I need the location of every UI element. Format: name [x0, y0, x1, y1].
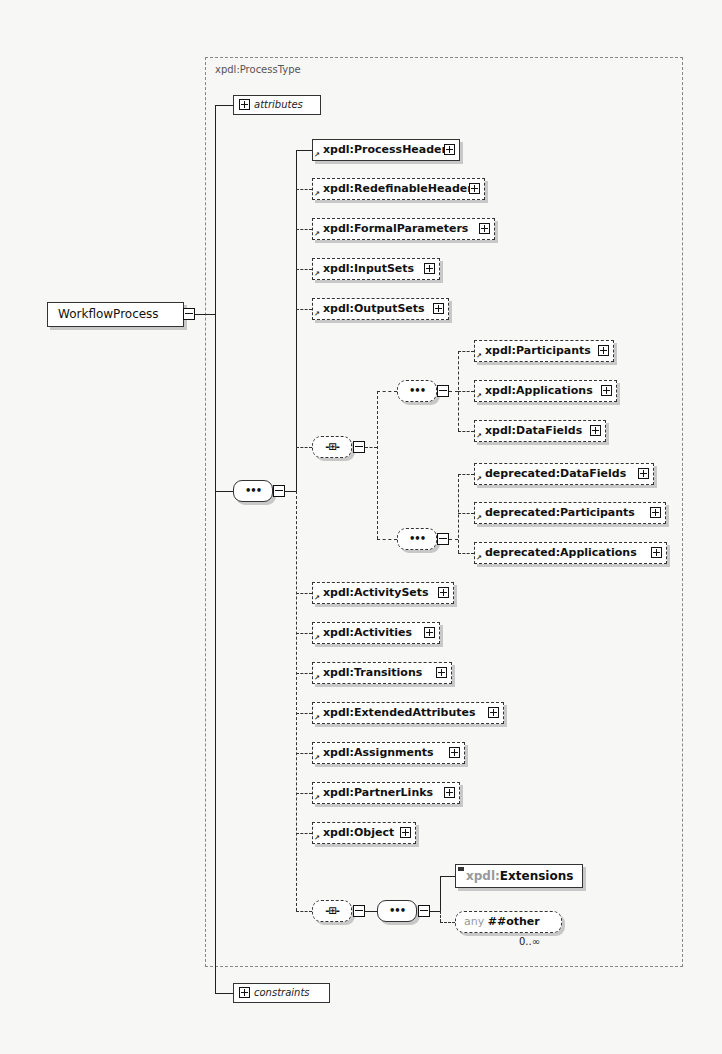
any-other-wildcard[interactable]: any ##other	[455, 911, 562, 933]
choice-compositor[interactable]: -⊞-	[312, 436, 352, 458]
expand-icon[interactable]	[651, 547, 662, 558]
expand-icon[interactable]	[424, 627, 435, 638]
connector	[296, 593, 312, 594]
expand-icon[interactable]	[449, 747, 460, 758]
element-activities[interactable]: ↗xpdl:Activities	[312, 622, 440, 644]
connector	[296, 189, 312, 190]
element-applications[interactable]: ↗xpdl:Applications	[474, 380, 617, 402]
connector	[296, 633, 312, 634]
expand-icon[interactable]	[444, 144, 455, 155]
collapse-icon[interactable]	[437, 385, 449, 397]
connector	[296, 793, 312, 794]
element-extensions[interactable]: xpdl:Extensions	[455, 864, 583, 888]
element-deprecated-data-fields[interactable]: ↗deprecated:DataFields	[474, 463, 654, 485]
cardinality-label: 0..∞	[519, 936, 540, 947]
connector	[440, 922, 455, 923]
connector	[296, 269, 312, 270]
constraints-label: constraints	[254, 987, 310, 998]
connector	[296, 673, 312, 674]
connector	[296, 229, 312, 230]
attributes-label: attributes	[254, 99, 303, 110]
expand-icon[interactable]	[638, 468, 649, 479]
process-type-label: xpdl:ProcessType	[215, 64, 301, 75]
collapse-icon[interactable]	[273, 485, 285, 497]
element-process-header[interactable]: ↗xpdl:ProcessHeader	[312, 139, 460, 161]
expand-icon[interactable]	[444, 787, 455, 798]
workflow-process-label: WorkflowProcess	[58, 307, 159, 321]
collapse-icon[interactable]	[418, 905, 430, 917]
connector	[215, 993, 233, 994]
connector	[449, 539, 458, 540]
connector	[377, 391, 397, 392]
expand-icon[interactable]	[436, 667, 447, 678]
connector	[296, 833, 312, 834]
collapse-icon[interactable]	[183, 308, 195, 320]
expand-icon[interactable]	[590, 425, 601, 436]
sequence-compositor[interactable]: •••	[397, 380, 437, 402]
connector	[195, 314, 215, 315]
connector	[296, 491, 297, 911]
connector	[285, 491, 296, 492]
expand-icon[interactable]	[598, 345, 609, 356]
constraints-group[interactable]: constraints	[233, 983, 330, 1003]
element-data-fields[interactable]: ↗xpdl:DataFields	[474, 420, 606, 442]
connector	[440, 876, 441, 911]
choice-compositor[interactable]: -⊞-	[312, 900, 352, 922]
connector	[430, 911, 440, 912]
collapse-icon[interactable]	[353, 441, 365, 453]
collapse-icon[interactable]	[353, 905, 365, 917]
element-activity-sets[interactable]: ↗xpdl:ActivitySets	[312, 582, 454, 604]
ref-marker-icon	[458, 867, 464, 871]
element-object[interactable]: ↗xpdl:Object	[312, 822, 416, 844]
connector	[215, 491, 233, 492]
sequence-compositor[interactable]: •••	[397, 528, 437, 550]
attributes-group[interactable]: attributes	[233, 95, 321, 115]
connector	[296, 753, 312, 754]
element-output-sets[interactable]: ↗xpdl:OutputSets	[312, 298, 449, 320]
connector	[440, 911, 441, 922]
element-transitions[interactable]: ↗xpdl:Transitions	[312, 662, 452, 684]
expand-icon[interactable]	[400, 827, 411, 838]
expand-icon[interactable]	[239, 99, 250, 110]
element-participants[interactable]: ↗xpdl:Participants	[474, 340, 614, 362]
workflow-process-element[interactable]: WorkflowProcess	[47, 302, 184, 327]
element-deprecated-applications[interactable]: ↗deprecated:Applications	[474, 542, 667, 564]
element-partner-links[interactable]: ↗xpdl:PartnerLinks	[312, 782, 460, 804]
element-extended-attributes[interactable]: ↗xpdl:ExtendedAttributes	[312, 702, 504, 724]
element-input-sets[interactable]: ↗xpdl:InputSets	[312, 258, 440, 280]
expand-icon[interactable]	[601, 385, 612, 396]
expand-icon[interactable]	[239, 987, 250, 998]
connector	[215, 105, 216, 993]
connector	[458, 474, 474, 475]
connector	[296, 150, 297, 491]
expand-icon[interactable]	[469, 183, 480, 194]
connector	[377, 539, 397, 540]
expand-icon[interactable]	[424, 263, 435, 274]
connector	[296, 911, 312, 912]
connector	[458, 553, 474, 554]
connector	[458, 513, 474, 514]
connector	[365, 911, 377, 912]
connector	[365, 447, 377, 448]
expand-icon[interactable]	[438, 587, 449, 598]
connector	[458, 391, 474, 392]
expand-icon[interactable]	[488, 707, 499, 718]
sequence-compositor[interactable]: •••	[377, 900, 417, 922]
connector	[296, 447, 312, 448]
element-formal-parameters[interactable]: ↗xpdl:FormalParameters	[312, 218, 495, 240]
element-deprecated-participants[interactable]: ↗deprecated:Participants	[474, 502, 666, 524]
collapse-icon[interactable]	[437, 533, 449, 545]
sequence-compositor[interactable]: •••	[233, 480, 273, 502]
connector	[215, 105, 233, 106]
connector	[458, 431, 474, 432]
expand-icon[interactable]	[479, 223, 490, 234]
connector	[296, 150, 312, 151]
expand-icon[interactable]	[433, 303, 444, 314]
connector	[440, 876, 455, 877]
expand-icon[interactable]	[650, 507, 661, 518]
connector	[296, 309, 312, 310]
element-assignments[interactable]: ↗xpdl:Assignments	[312, 742, 465, 764]
connector	[296, 713, 312, 714]
element-redefinable-header[interactable]: ↗xpdl:RedefinableHeader	[312, 178, 485, 200]
connector	[458, 351, 474, 352]
